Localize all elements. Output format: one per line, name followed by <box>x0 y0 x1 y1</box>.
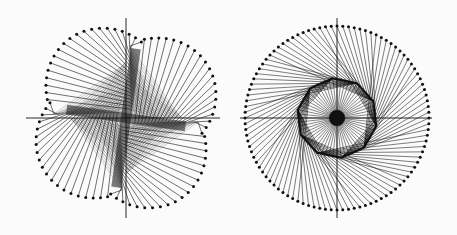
endpoint-dot <box>57 48 60 51</box>
endpoint-dot <box>92 197 95 200</box>
endpoint-dot <box>353 26 356 29</box>
endpoint-dot <box>369 202 372 205</box>
endpoint-dot <box>410 62 413 65</box>
endpoint-dot <box>56 184 59 187</box>
endpoint-dot <box>419 156 422 159</box>
endpoint-dot <box>423 145 426 148</box>
endpoint-dot <box>140 40 143 43</box>
endpoint-dot <box>358 27 361 30</box>
endpoint-dot <box>296 200 299 203</box>
endpoint-dot <box>353 207 356 210</box>
endpoint-dot <box>255 161 258 164</box>
endpoint-dot <box>128 203 131 206</box>
endpoint-dot <box>281 42 284 45</box>
endpoint-dot <box>62 188 65 191</box>
endpoint-dot <box>134 36 137 39</box>
endpoint-dot <box>258 166 261 169</box>
endpoint-dot <box>115 197 118 200</box>
endpoint-dot <box>406 58 409 61</box>
endpoint-dot <box>403 54 406 57</box>
endpoint-dot <box>136 205 139 208</box>
endpoint-dot <box>201 132 204 135</box>
endpoint-dot <box>394 46 397 49</box>
endpoint-dot <box>68 37 71 40</box>
endpoint-dot <box>413 67 416 70</box>
endpoint-dot <box>187 45 190 48</box>
endpoint-dot <box>380 36 383 39</box>
endpoint-dot <box>403 179 406 182</box>
endpoint-dot <box>199 54 202 57</box>
endpoint-dot <box>410 171 413 174</box>
endpoint-dot <box>44 84 47 87</box>
endpoint-dot <box>330 25 333 28</box>
endpoint-dot <box>41 113 44 116</box>
endpoint-dot <box>98 27 101 30</box>
endpoint-dot <box>390 42 393 45</box>
endpoint-dot <box>246 94 249 97</box>
endpoint-dot <box>336 209 339 212</box>
endpoint-dot <box>213 105 216 108</box>
endpoint-dot <box>364 204 367 207</box>
endpoint-dot <box>302 31 305 34</box>
endpoint-dot <box>427 122 430 125</box>
endpoint-dot <box>244 105 247 108</box>
endpoint-dot <box>248 145 251 148</box>
endpoint-dot <box>277 46 280 49</box>
endpoint-dot <box>318 26 321 29</box>
endpoint-dot <box>109 193 112 196</box>
endpoint-dot <box>49 61 52 64</box>
endpoint-dot <box>291 197 294 200</box>
endpoint-dot <box>208 67 211 70</box>
endpoint-dot <box>204 157 207 160</box>
endpoint-dot <box>121 30 124 33</box>
endpoint-dot <box>427 111 430 114</box>
endpoint-dot <box>248 88 251 91</box>
endpoint-dot <box>172 39 175 42</box>
endpoint-dot <box>45 76 48 79</box>
endpoint-dot <box>204 142 207 145</box>
endpoint-dot <box>244 128 247 131</box>
endpoint-dot <box>205 149 208 152</box>
endpoint-dot <box>416 72 419 75</box>
rosette-figure <box>240 18 432 218</box>
endpoint-dot <box>419 77 422 80</box>
endpoint-dot <box>398 184 401 187</box>
endpoint-dot <box>425 94 428 97</box>
endpoint-dot <box>341 208 344 211</box>
endpoint-dot <box>427 105 430 108</box>
endpoint-dot <box>425 139 428 142</box>
endpoint-dot <box>208 120 211 123</box>
endpoint-dot <box>364 29 367 32</box>
endpoint-dot <box>244 117 247 120</box>
endpoint-dot <box>165 37 168 40</box>
endpoint-dot <box>38 159 41 162</box>
endpoint-dot <box>84 196 87 199</box>
endpoint-dot <box>159 205 162 208</box>
endpoint-dot <box>180 41 183 44</box>
endpoint-dot <box>151 206 154 209</box>
endpoint-dot <box>252 156 255 159</box>
endpoint-dot <box>143 38 146 41</box>
endpoint-dot <box>157 36 160 39</box>
endpoint-dot <box>277 187 280 190</box>
endpoint-dot <box>213 82 216 85</box>
endpoint-dot <box>341 25 344 28</box>
endpoint-dot <box>347 208 350 211</box>
endpoint-dot <box>82 30 85 33</box>
endpoint-dot <box>273 49 276 52</box>
endpoint-dot <box>187 191 190 194</box>
endpoint-dot <box>106 27 109 30</box>
endpoint-dot <box>347 25 350 28</box>
endpoint-dot <box>128 33 131 36</box>
endpoint-dot <box>196 179 199 182</box>
endpoint-dot <box>36 128 39 131</box>
endpoint-dot <box>375 33 378 36</box>
endpoint-dot <box>286 39 289 42</box>
endpoint-dot <box>202 164 205 167</box>
pinwheel-figure <box>26 18 220 218</box>
endpoint-dot <box>214 90 217 93</box>
endpoint-dot <box>245 99 248 102</box>
endpoint-dot <box>369 31 372 34</box>
endpoint-dot <box>174 200 177 203</box>
endpoint-dot <box>302 202 305 205</box>
